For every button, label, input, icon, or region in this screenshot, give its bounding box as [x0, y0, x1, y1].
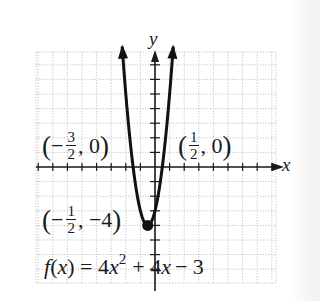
- comma: ,: [201, 135, 212, 157]
- numerator: 3: [66, 130, 76, 146]
- function-arg: x: [57, 254, 67, 279]
- constant-term: − 3: [175, 254, 204, 279]
- right-intercept-label: ( 1 2 , 0 ): [178, 130, 232, 162]
- left-intercept-label: ( − 3 2 , 0 ): [42, 130, 109, 162]
- parabola-curve: [122, 47, 173, 226]
- x-axis-label: x: [282, 155, 290, 174]
- open-paren: (: [42, 206, 51, 234]
- sign: −: [51, 135, 63, 157]
- numerator: 1: [66, 204, 76, 220]
- linear-term: + 4: [132, 254, 161, 279]
- fraction: 1 2: [66, 204, 76, 236]
- sign: −: [51, 209, 63, 231]
- close-paren: ): [100, 132, 109, 160]
- equation-label: f(x) = 4x2+ 4x− 3: [44, 252, 204, 278]
- comma: ,: [78, 135, 89, 157]
- exponent: 2: [119, 251, 127, 267]
- y-value: −4: [89, 209, 112, 231]
- close-paren: ): [223, 132, 232, 160]
- numerator: 1: [189, 130, 199, 146]
- fraction: 3 2: [66, 130, 76, 162]
- var-x: x: [109, 254, 119, 279]
- close-paren: ): [112, 206, 121, 234]
- open-paren: (: [178, 132, 187, 160]
- denominator: 2: [190, 146, 198, 162]
- vertex-label: ( − 1 2 , −4 ): [42, 204, 121, 236]
- var-x2: x: [161, 254, 171, 279]
- vertex-point: [142, 220, 153, 231]
- comma: ,: [78, 209, 89, 231]
- y-value: 0: [212, 135, 223, 157]
- coef-a: 4: [98, 254, 109, 279]
- denominator: 2: [67, 146, 75, 162]
- fraction: 1 2: [189, 130, 199, 162]
- y-axis-label: y: [149, 29, 157, 48]
- open-paren: (: [42, 132, 51, 160]
- denominator: 2: [67, 220, 75, 236]
- eq-close: ) =: [67, 254, 98, 279]
- y-value: 0: [89, 135, 100, 157]
